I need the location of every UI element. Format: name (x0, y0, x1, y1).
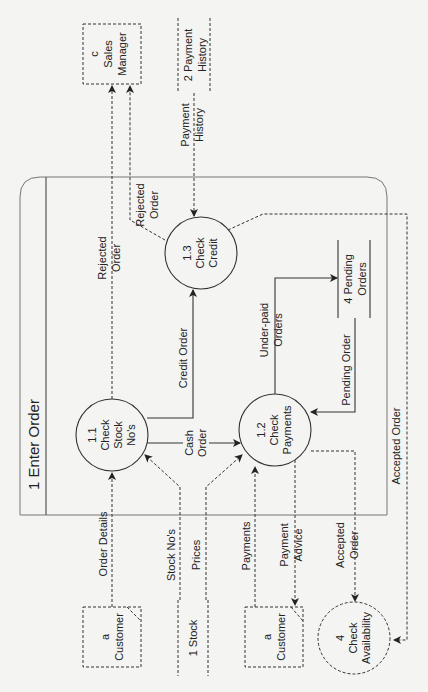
svg-text:4: 4 (334, 635, 346, 641)
svg-text:Stock: Stock (112, 421, 124, 449)
svg-text:Orders: Orders (272, 313, 284, 347)
flow-rejected-order-from-credit: Rejected Order (130, 86, 165, 240)
svg-text:Check: Check (347, 622, 359, 654)
flow-accepted-order-short: Accepted Order (311, 451, 360, 601)
svg-text:1 Stock: 1 Stock (187, 619, 199, 656)
svg-text:Payments: Payments (240, 521, 252, 570)
process-check-payments: 1.2 Check Payments (239, 394, 311, 466)
store-stock: 1 Stock (178, 600, 208, 676)
flow-payments: Payments (240, 467, 255, 607)
flow-under-paid-orders: Under-paid Orders (258, 278, 337, 394)
svg-text:c: c (88, 51, 100, 57)
flow-rejected-order-from-stock: Rejected Order (96, 86, 122, 399)
svg-text:Customer: Customer (113, 613, 125, 661)
svg-text:2 Payment: 2 Payment (182, 29, 194, 82)
svg-text:Order: Order (196, 429, 208, 457)
svg-text:Order: Order (110, 244, 122, 272)
svg-text:Check: Check (99, 419, 111, 451)
svg-text:Pending Order: Pending Order (340, 334, 352, 406)
process-box-title: 1 Enter Order (25, 399, 42, 490)
svg-text:History: History (193, 107, 205, 142)
svg-text:Orders: Orders (356, 262, 368, 296)
svg-text:Payment: Payment (179, 103, 191, 146)
svg-text:Rejected: Rejected (134, 183, 146, 226)
store-pending-orders: 4 Pending Orders (338, 240, 370, 318)
svg-text:No's: No's (125, 424, 137, 446)
svg-text:1.1: 1.1 (86, 427, 98, 442)
svg-text:Stock No's: Stock No's (165, 528, 177, 581)
svg-text:Manager: Manager (116, 32, 128, 76)
process-check-stock: 1.1 Check Stock No's (76, 399, 148, 471)
flow-stock-nos: Stock No's (145, 455, 180, 600)
svg-text:Cash: Cash (183, 430, 195, 456)
svg-text:Payment: Payment (278, 523, 290, 566)
data-flow-diagram: 1 Enter Order c Sales Manager 2 Payment … (0, 0, 428, 692)
svg-text:Advice: Advice (292, 528, 304, 561)
svg-text:Order: Order (148, 191, 160, 219)
process-check-availability: 4 Check Availability (318, 602, 390, 674)
flow-payment-history: Payment History (179, 93, 205, 216)
svg-text:Order: Order (348, 531, 360, 559)
svg-text:Prices: Prices (190, 539, 202, 570)
svg-text:Credit Order: Credit Order (177, 327, 189, 388)
svg-text:Order Details: Order Details (97, 511, 109, 576)
entity-customer-1: a Customer (83, 607, 141, 667)
entity-customer-2: a Customer (245, 607, 303, 667)
svg-text:Sales: Sales (102, 40, 114, 68)
svg-text:Payments: Payments (281, 405, 293, 454)
flow-payment-advice: Payment Advice (278, 460, 304, 605)
svg-text:Rejected: Rejected (96, 236, 108, 279)
svg-text:Under-paid: Under-paid (258, 303, 270, 357)
entity-sales-manager: c Sales Manager (83, 24, 141, 84)
store-payment-history: 2 Payment History (178, 18, 210, 92)
flow-prices: Prices (190, 455, 242, 600)
svg-text:a: a (261, 633, 273, 640)
svg-text:Credit: Credit (207, 238, 219, 267)
svg-text:4 Pending: 4 Pending (342, 254, 354, 304)
flow-cash-order: Cash Order (147, 427, 240, 459)
svg-text:Check: Check (268, 414, 280, 446)
flow-order-details: Order Details (97, 473, 112, 607)
svg-text:a: a (99, 633, 111, 640)
svg-text:Availability: Availability (360, 612, 372, 664)
svg-text:1.2: 1.2 (255, 422, 267, 437)
flow-pending-order: Pending Order (311, 318, 355, 412)
svg-text:Accepted: Accepted (334, 522, 346, 568)
svg-text:History: History (196, 37, 208, 72)
svg-text:Check: Check (194, 237, 206, 269)
svg-text:Customer: Customer (275, 613, 287, 661)
flow-credit-order: Credit Order (147, 290, 193, 418)
svg-text:1.3: 1.3 (181, 245, 193, 260)
process-check-credit: 1.3 Check Credit (165, 217, 237, 289)
process-box-enter-order: 1 Enter Order (20, 177, 387, 515)
svg-text:Accepted Order: Accepted Order (390, 407, 402, 484)
